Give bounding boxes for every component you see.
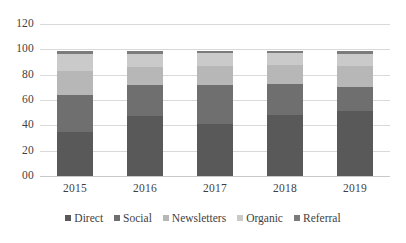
bar-segment-direct[interactable] xyxy=(337,111,373,176)
bar-segment-organic[interactable] xyxy=(127,54,163,67)
bar-segment-newsletters[interactable] xyxy=(57,71,93,95)
bar-group-2016[interactable] xyxy=(110,24,180,176)
legend-swatch-icon xyxy=(294,215,300,221)
y-axis-tick-label: 120 xyxy=(0,18,34,30)
stacked-bar[interactable] xyxy=(127,51,163,176)
y-axis-tick-label: 100 xyxy=(0,43,34,55)
bar-segment-direct[interactable] xyxy=(197,124,233,176)
bar-segment-organic[interactable] xyxy=(197,53,233,66)
legend-item-direct[interactable]: Direct xyxy=(65,212,103,224)
bar-group-2017[interactable] xyxy=(180,24,250,176)
bar-segment-organic[interactable] xyxy=(337,54,373,65)
bar-segment-newsletters[interactable] xyxy=(267,65,303,84)
x-axis-tick-label: 2016 xyxy=(110,182,180,194)
legend-item-label: Referral xyxy=(303,212,341,224)
bars-layer xyxy=(40,24,390,176)
legend-item-label: Direct xyxy=(74,212,103,224)
y-axis-tick-label: 60 xyxy=(0,94,34,106)
bar-segment-direct[interactable] xyxy=(57,132,93,176)
plot-area xyxy=(40,24,390,176)
bar-segment-social[interactable] xyxy=(267,84,303,116)
legend-item-organic[interactable]: Organic xyxy=(237,212,283,224)
bar-segment-social[interactable] xyxy=(57,95,93,132)
bar-segment-newsletters[interactable] xyxy=(197,66,233,85)
y-axis-tick-label: 00 xyxy=(0,170,34,182)
y-axis-tick-label: 20 xyxy=(0,145,34,157)
legend-item-label: Social xyxy=(123,212,152,224)
stacked-bar-chart: 1201008060402000 20152016201720182019 Di… xyxy=(0,0,406,243)
x-axis-tick-label: 2019 xyxy=(320,182,390,194)
legend-swatch-icon xyxy=(163,215,169,221)
bar-segment-social[interactable] xyxy=(197,85,233,124)
bar-segment-direct[interactable] xyxy=(127,116,163,176)
bar-segment-organic[interactable] xyxy=(267,53,303,64)
legend-swatch-icon xyxy=(65,215,71,221)
chart-legend: DirectSocialNewslettersOrganicReferral xyxy=(0,212,406,224)
bar-group-2019[interactable] xyxy=(320,24,390,176)
x-axis-tick-label: 2017 xyxy=(180,182,250,194)
bar-segment-direct[interactable] xyxy=(267,115,303,176)
x-axis-tick-label: 2015 xyxy=(40,182,110,194)
legend-item-referral[interactable]: Referral xyxy=(294,212,341,224)
bar-segment-newsletters[interactable] xyxy=(127,67,163,85)
x-axis-tick-label: 2018 xyxy=(250,182,320,194)
bar-segment-organic[interactable] xyxy=(57,54,93,70)
legend-item-label: Organic xyxy=(246,212,283,224)
legend-item-newsletters[interactable]: Newsletters xyxy=(163,212,226,224)
legend-item-label: Newsletters xyxy=(172,212,226,224)
bar-group-2018[interactable] xyxy=(250,24,320,176)
bar-segment-newsletters[interactable] xyxy=(337,66,373,88)
bar-segment-social[interactable] xyxy=(337,87,373,111)
stacked-bar[interactable] xyxy=(57,51,93,176)
legend-item-social[interactable]: Social xyxy=(114,212,152,224)
bar-group-2015[interactable] xyxy=(40,24,110,176)
y-axis-tick-label: 80 xyxy=(0,69,34,81)
stacked-bar[interactable] xyxy=(337,51,373,176)
stacked-bar[interactable] xyxy=(197,51,233,176)
legend-swatch-icon xyxy=(237,215,243,221)
legend-swatch-icon xyxy=(114,215,120,221)
bar-segment-social[interactable] xyxy=(127,85,163,117)
stacked-bar[interactable] xyxy=(267,51,303,176)
y-axis-tick-label: 40 xyxy=(0,119,34,131)
gridline-00 xyxy=(40,176,390,177)
